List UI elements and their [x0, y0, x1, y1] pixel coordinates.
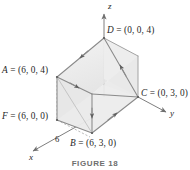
vertex-label-F: F = (6, 0, 0): [2, 112, 48, 121]
figure-caption: FIGURE 18: [0, 160, 190, 170]
vertex-label-B-coords: = (6, 3, 0): [76, 138, 117, 148]
axis-tick-label-6: 6: [55, 135, 59, 144]
figure-container: D = (0, 0, 4) A = (6, 0, 4) C = (0, 3, 0…: [0, 0, 190, 170]
vertex-label-F-coords: = (6, 0, 0): [8, 111, 49, 121]
vertex-label-A-coords: = (6, 0, 4): [8, 65, 49, 75]
y-axis: [138, 97, 166, 112]
vertex-label-D: D = (0, 0, 4): [107, 26, 154, 35]
vertex-label-D-coords: = (0, 0, 4): [114, 25, 155, 35]
vertex-label-A: A = (6, 0, 4): [2, 66, 48, 75]
vertex-dot-C: [137, 96, 139, 98]
vertex-dot-F: [56, 119, 58, 121]
vertex-dot-B: [91, 132, 93, 134]
vertex-dot-A: [56, 76, 58, 78]
vertex-label-C: C = (0, 3, 0): [141, 89, 188, 98]
box-faces-group: [57, 38, 138, 133]
axis-label-y: y: [170, 109, 174, 118]
axis-label-z: z: [108, 2, 112, 11]
vertex-label-D-name: D: [107, 25, 114, 35]
vertex-label-C-coords: = (0, 3, 0): [147, 88, 188, 98]
vertex-label-B: B = (6, 3, 0): [70, 139, 116, 148]
vertex-dot-D: [103, 37, 105, 39]
